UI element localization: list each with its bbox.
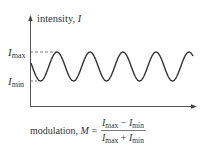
svg-text:modulation, M =: modulation, M =: [30, 125, 97, 136]
intensity-wave: [31, 52, 193, 81]
formula-numerator: Imax − Imin: [101, 117, 144, 130]
y-axis-arrow-icon: [28, 15, 32, 21]
modulation-formula: modulation, M = Imax − Imin Imax + Imin: [30, 117, 146, 145]
imin-label: Imin: [7, 75, 24, 89]
modulation-diagram: intensity, I Imax Imin modulation, M = I…: [0, 0, 203, 148]
y-axis-label: intensity, I: [37, 13, 82, 24]
formula-denominator: Imax + Imin: [101, 132, 144, 145]
x-axis-arrow-icon: [191, 104, 197, 108]
imax-label: Imax: [7, 46, 25, 60]
